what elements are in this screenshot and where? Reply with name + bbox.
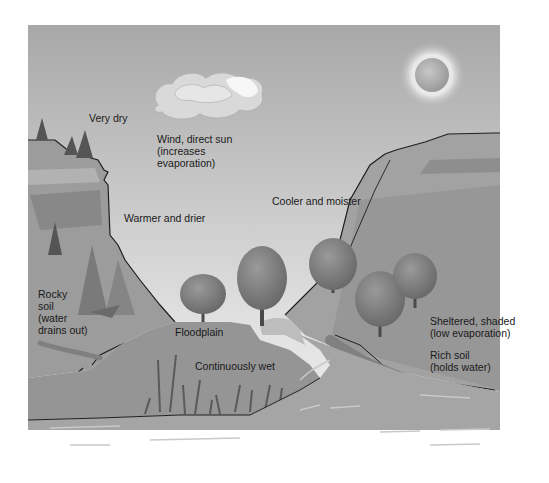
label-rocky-soil: Rocky soil (water drains out) bbox=[38, 288, 88, 336]
valley-diagram bbox=[0, 0, 549, 483]
label-warmer-and-drier: Warmer and drier bbox=[124, 212, 205, 224]
sun-icon bbox=[398, 41, 466, 109]
label-rich-soil: Rich soil (holds water) bbox=[430, 349, 491, 373]
label-floodplain: Floodplain bbox=[175, 326, 223, 338]
label-continuously-wet: Continuously wet bbox=[195, 360, 275, 372]
label-cooler-and-moister: Cooler and moister bbox=[272, 195, 361, 207]
label-sheltered-shaded: Sheltered, shaded (low evaporation) bbox=[430, 315, 515, 339]
label-very-dry: Very dry bbox=[89, 112, 128, 124]
label-wind-direct-sun: Wind, direct sun (increases evaporation) bbox=[157, 133, 232, 169]
